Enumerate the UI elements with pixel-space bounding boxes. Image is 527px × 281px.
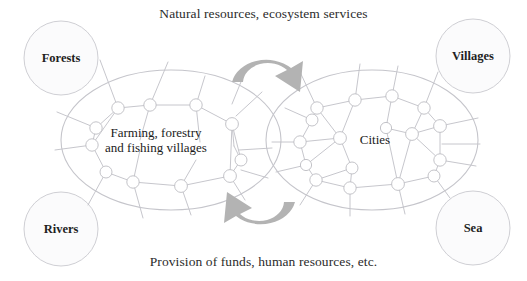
diagram-graphics — [0, 0, 527, 281]
rural-region-label-line2: and fishing villages — [86, 140, 226, 155]
corner-node-label-forests: Forests — [21, 51, 101, 66]
urban-region-label: Cities — [330, 132, 420, 147]
corner-node-label-sea: Sea — [433, 221, 513, 236]
diagram-canvas: Natural resources, ecosystem services Pr… — [0, 0, 527, 281]
urban-region-label-line1: Cities — [330, 132, 420, 147]
rural-region-label-line1: Farming, forestry — [86, 125, 226, 140]
corner-node-label-villages: Villages — [433, 49, 513, 64]
rural-region-label: Farming, forestry and fishing villages — [86, 125, 226, 155]
caption-provision-of-funds: Provision of funds, human resources, etc… — [0, 254, 527, 270]
corner-node-label-rivers: Rivers — [21, 222, 101, 237]
caption-natural-resources: Natural resources, ecosystem services — [0, 6, 527, 22]
